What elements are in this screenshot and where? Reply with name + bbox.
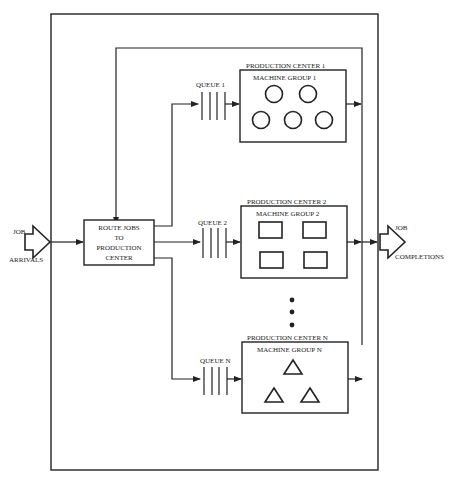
machine-group-1-label: MACHINE GROUP 1 <box>253 74 317 82</box>
job-arrivals-label-1: JOB <box>13 228 26 236</box>
machine-group-2-label: MACHINE GROUP 2 <box>256 210 320 218</box>
machine-group-n-label: MACHINE GROUP N <box>257 346 322 354</box>
queue-n-label: QUEUE N <box>200 357 231 365</box>
job-completions-label-2: COMPLETIONS <box>395 253 444 261</box>
router-box: ROUTE JOBS TO PRODUCTION CENTER <box>84 220 154 265</box>
job-arrivals-arrow-icon <box>25 226 50 258</box>
job-completions-label-1: JOB <box>395 224 408 232</box>
center-n-title: PRODUCTION CENTER N <box>247 334 328 342</box>
router-label-2: TO <box>114 234 123 242</box>
job-arrivals-label-2: ARRIVALS <box>9 256 43 264</box>
router-label-4: CENTER <box>105 254 133 262</box>
center-1-title: PRODUCTION CENTER 1 <box>246 62 326 70</box>
job-shop-diagram: JOB ARRIVALS ROUTE JOBS TO PRODUCTION CE… <box>0 0 458 477</box>
router-label-1: ROUTE JOBS <box>98 224 140 232</box>
queue-2-label: QUEUE 2 <box>198 219 227 227</box>
router-label-3: PRODUCTION <box>96 244 141 252</box>
center-2-title: PRODUCTION CENTER 2 <box>247 198 327 206</box>
queue-1-label: QUEUE 1 <box>196 81 225 89</box>
